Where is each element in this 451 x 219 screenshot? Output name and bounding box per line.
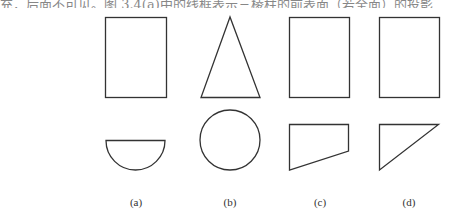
cut-off-body-text-bottom: …… (0, 212, 451, 219)
panel-c-top-view-trapezoid (290, 125, 349, 171)
panel-c-front-view-rectangle (290, 18, 350, 98)
panel-a-front-view-rectangle (106, 18, 167, 98)
panel-b-top-view-circle (200, 110, 260, 170)
panel-d-front-view-rectangle (380, 18, 440, 98)
panel-a-top-view-semicircle (106, 141, 165, 171)
caption-c: (c) (300, 196, 340, 208)
caption-b: (b) (210, 196, 250, 208)
projection-figure (0, 0, 451, 219)
caption-a: (a) (116, 196, 156, 208)
panel-d-top-view-triangle (380, 125, 439, 171)
panel-b-front-view-triangle (201, 17, 260, 98)
caption-d: (d) (389, 196, 429, 208)
